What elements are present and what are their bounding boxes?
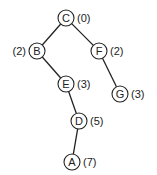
tree-node-e: E(3) xyxy=(58,76,90,92)
tree-node-a: A(7) xyxy=(64,154,96,170)
node-label: F xyxy=(96,45,103,57)
node-value: (2) xyxy=(13,45,26,57)
tree-node-g: G(3) xyxy=(112,86,144,102)
node-label: C xyxy=(62,12,70,24)
tree-diagram: C(0)B(2)F(2)E(3)G(3)D(5)A(7) xyxy=(0,0,157,175)
node-value: (7) xyxy=(83,156,96,168)
edge-d-a xyxy=(73,129,77,154)
node-label: G xyxy=(116,88,125,100)
node-value: (3) xyxy=(131,88,144,100)
node-label: D xyxy=(75,115,83,127)
tree-node-b: B(2) xyxy=(13,43,45,59)
node-label: E xyxy=(62,78,69,90)
node-label: B xyxy=(33,45,40,57)
node-value: (0) xyxy=(77,12,90,24)
edge-b-e xyxy=(42,57,60,78)
node-value: (3) xyxy=(77,78,90,90)
nodes-group: C(0)B(2)F(2)E(3)G(3)D(5)A(7) xyxy=(13,10,145,170)
edge-c-b xyxy=(42,24,60,45)
node-value: (5) xyxy=(90,115,103,127)
tree-node-c: C(0) xyxy=(58,10,90,26)
node-label: A xyxy=(68,156,76,168)
edge-e-d xyxy=(69,92,77,114)
tree-node-d: D(5) xyxy=(71,113,103,129)
edge-f-g xyxy=(103,58,117,87)
edge-c-f xyxy=(72,24,94,46)
node-value: (2) xyxy=(110,45,123,57)
tree-node-f: F(2) xyxy=(91,43,123,59)
